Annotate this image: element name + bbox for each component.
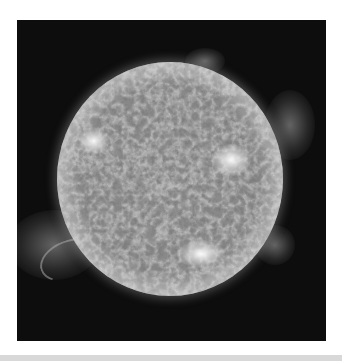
granulation-texture [57, 62, 283, 296]
photo-frame [17, 20, 326, 341]
active-region-right [211, 144, 251, 176]
bottom-band [0, 355, 342, 361]
active-region-bottom [177, 240, 225, 268]
solar-disk [57, 62, 283, 296]
active-region-left [79, 127, 109, 155]
